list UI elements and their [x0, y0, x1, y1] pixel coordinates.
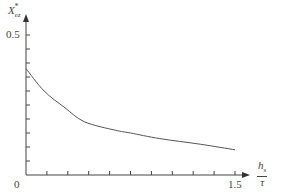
x-axis-arrow-icon — [242, 172, 250, 178]
data-series-line — [26, 69, 235, 150]
y-ticks — [26, 35, 30, 161]
origin-label: 0 — [14, 178, 20, 190]
chart-canvas — [0, 0, 283, 192]
y-tick-label-top: 0.5 — [6, 28, 20, 40]
x-axis-label: hs τ — [257, 160, 267, 188]
y-axis-label-main: X — [8, 4, 15, 16]
y-axis-label-sup: * — [15, 2, 19, 11]
x-ticks — [47, 171, 235, 175]
axes — [23, 14, 250, 178]
x-tick-label-last: 1.5 — [228, 178, 242, 190]
y-axis-label-sub: ez — [15, 11, 21, 19]
y-axis-label: Xez* — [8, 2, 19, 19]
x-axis-label-den: τ — [257, 177, 267, 188]
y-axis-arrow-icon — [23, 14, 29, 22]
x-axis-label-num-sub: s — [264, 166, 267, 174]
